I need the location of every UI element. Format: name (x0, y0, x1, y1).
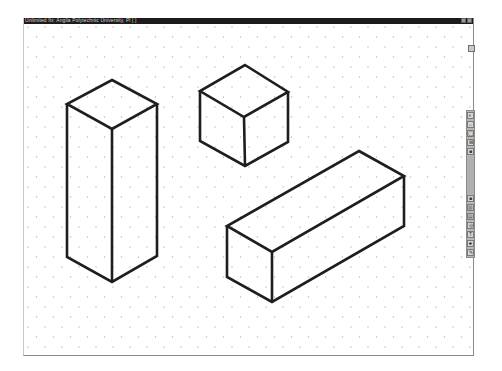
toolbar-scroll-track[interactable] (467, 156, 474, 194)
pencil-icon: ✎ (469, 249, 473, 255)
pencil-tool-button[interactable]: ✎ (467, 249, 474, 256)
shape-icon: ◯ (468, 130, 474, 136)
window-title: Unlimited fix: Anglia Polytechnic Univer… (25, 17, 137, 24)
app-window: Unlimited fix: Anglia Polytechnic Univer… (23, 18, 474, 356)
stamp-icon: ♣ (469, 240, 472, 246)
layers-button[interactable]: ▥ (467, 204, 474, 211)
canvas-svg (24, 24, 474, 355)
drawing-canvas[interactable] (24, 24, 473, 355)
circle-icon: ◎ (469, 222, 473, 228)
grid-icon: ⊠ (469, 139, 473, 145)
list-icon: ▤ (468, 213, 473, 219)
fill-color-button[interactable]: ■ (467, 195, 474, 202)
tool-palette: ◐ ⇔ ◯ ⊠ ■ ■ ▥ ▤ ◎ T ♣ ✎ (466, 110, 475, 258)
shape-tool-button[interactable]: ◯ (467, 130, 474, 137)
fill-icon: ■ (469, 148, 472, 154)
fill-icon: ■ (469, 195, 472, 201)
minimize-button[interactable] (461, 18, 466, 23)
stamp-tool-button[interactable]: ♣ (467, 240, 474, 247)
text-icon: T (469, 231, 472, 237)
rotate-icon: ⇔ (468, 121, 473, 127)
panel-toggle-button[interactable] (468, 45, 475, 52)
select-icon: ◐ (469, 112, 472, 118)
circle-tool-button[interactable]: ◎ (467, 222, 474, 229)
fill-tool-button[interactable]: ■ (467, 148, 474, 155)
rotate-tool-button[interactable]: ⇔ (467, 121, 474, 128)
maximize-button[interactable] (467, 18, 472, 23)
dot-grid (24, 24, 474, 355)
layers-icon: ▥ (468, 204, 473, 210)
grid-tool-button[interactable]: ⊠ (467, 139, 474, 146)
list-button[interactable]: ▤ (467, 213, 474, 220)
text-tool-button[interactable]: T (467, 231, 474, 238)
select-tool-button[interactable]: ◐ (467, 112, 474, 119)
